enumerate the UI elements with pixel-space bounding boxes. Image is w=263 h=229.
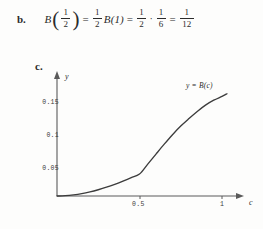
- function-graph: 0.15 0.1 0.05 0.5 1 y c y = B(c): [0, 0, 263, 229]
- x-tick-label-0-5: 0.5: [132, 201, 145, 208]
- x-tick-label-1: 1: [220, 201, 224, 208]
- y-tick-label-0-1: 0.1: [35, 132, 59, 139]
- curve-y-equals-B-of-c: [57, 94, 227, 196]
- scanned-page: b. B ( 1 2 ) = 1 2 B(1) = 1 2 · 1 6 =: [0, 0, 263, 229]
- x-axis-label: c: [249, 198, 253, 207]
- graph-svg: [0, 0, 263, 229]
- y-axis-arrowhead: [54, 71, 60, 79]
- curve-annotation-label: y = B(c): [186, 81, 213, 90]
- y-tick-label-0-15: 0.15: [35, 99, 59, 106]
- y-axis-label: y: [65, 72, 69, 81]
- x-axis-arrowhead: [236, 193, 244, 199]
- y-tick-label-0-05: 0.05: [35, 165, 59, 172]
